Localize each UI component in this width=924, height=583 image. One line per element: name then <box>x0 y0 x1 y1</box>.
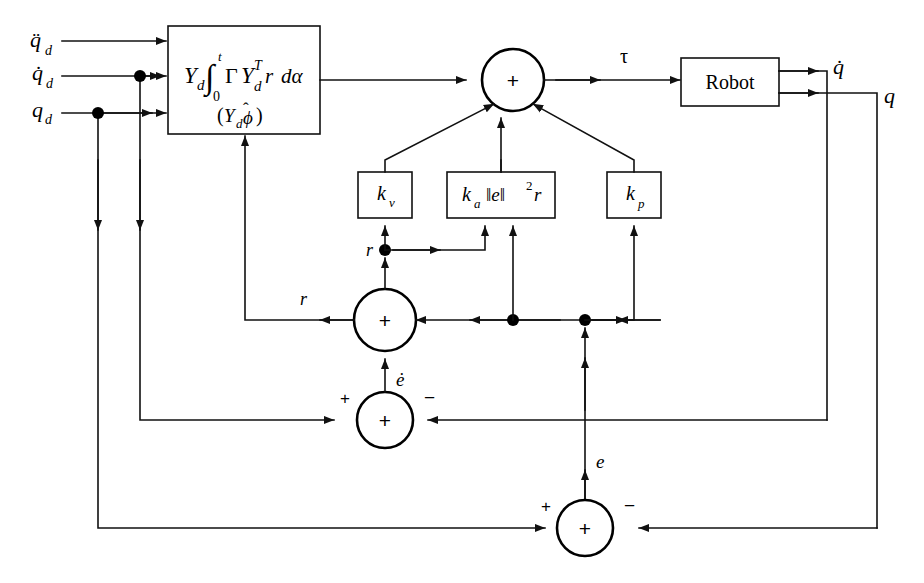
e-summer-plus-sign: + <box>541 497 551 516</box>
formula-YdT-superscript: T <box>254 58 263 73</box>
formula-integral-upper-limit: t <box>218 49 222 64</box>
junction-dot-qd <box>92 107 104 119</box>
signal-label-e: e <box>596 451 604 472</box>
torque-summer-plus-symbol: + <box>507 69 519 92</box>
velocity-gain-block[interactable]: k v <box>358 172 412 218</box>
formula-Yd-subscript: d <box>197 77 205 93</box>
formula-r: r <box>265 64 274 88</box>
ka-subscript: a <box>474 196 481 211</box>
formula-integral-lower-limit: 0 <box>213 89 220 104</box>
adaptive-feedforward-block[interactable]: Y d ∫ t 0 Γ Y d T r dα ( Y d ϕ ˆ ) <box>168 26 320 134</box>
input-qdd-symbol: q̈ <box>30 27 41 52</box>
e-summer-minus-sign: − <box>624 495 635 516</box>
control-block-diagram: Y d ∫ t 0 Γ Y d T r dα ( Y d ϕ ˆ ) q̈ d … <box>0 0 924 583</box>
position-error-summing-junction[interactable]: + <box>557 500 613 556</box>
subformula-paren-close: ) <box>256 104 263 127</box>
kp-subscript: p <box>637 196 645 211</box>
edot-summer-plus-sign: + <box>340 389 350 408</box>
signal-label-edot: ė <box>396 369 404 390</box>
e-summer-plus-symbol: + <box>579 517 591 540</box>
robot-block-label: Robot <box>706 71 755 93</box>
torque-summing-junction[interactable]: + <box>482 49 544 111</box>
formula-YdT-subscript: d <box>254 78 262 94</box>
kv-label: k <box>377 182 387 204</box>
edot-summer-minus-sign: − <box>424 387 435 408</box>
ka-label: k <box>462 183 472 205</box>
edot-summer-plus-symbol: + <box>379 409 391 432</box>
junction-dot-qddot <box>134 70 146 82</box>
kp-label: k <box>626 182 636 204</box>
input-qdd-subscript: d <box>45 43 53 58</box>
robot-block[interactable]: Robot <box>681 58 779 106</box>
r-summer-plus-symbol: + <box>379 309 391 332</box>
signal-label-r-to-adaptive: r <box>300 289 308 309</box>
input-qd-dot-symbol: q̇ <box>32 60 43 85</box>
r-summing-junction[interactable]: + <box>354 289 416 351</box>
subformula-paren-open: ( <box>217 104 224 127</box>
signal-label-q: q <box>884 83 895 108</box>
input-qd-symbol: q <box>32 97 43 122</box>
ka-trailing-r: r <box>534 184 542 205</box>
signal-label-qdot: q̇ <box>833 54 844 79</box>
formula-dalpha: dα <box>281 64 304 88</box>
ka-norm-e: ‖e‖ <box>486 184 505 205</box>
block-diagram-canvas: Y d ∫ t 0 Γ Y d T r dα ( Y d ϕ ˆ ) q̈ d … <box>0 0 924 583</box>
velocity-error-summing-junction[interactable]: + <box>357 392 413 448</box>
input-qd-subscript: d <box>45 112 53 127</box>
signal-label-tau: τ <box>620 45 628 67</box>
diagram-background <box>0 0 924 583</box>
input-qd-dot-subscript: d <box>46 76 54 91</box>
signal-qdot-symbol: q̇ <box>833 54 844 79</box>
signal-q-symbol: q <box>884 83 895 108</box>
formula-gamma: Γ <box>225 63 238 88</box>
adaptive-gain-block[interactable]: k a ‖e‖ 2 r <box>447 172 555 218</box>
position-gain-block[interactable]: k p <box>607 172 661 218</box>
kv-subscript: v <box>389 195 395 210</box>
subformula-Yd-subscript: d <box>236 116 243 131</box>
subformula-phi-hat-accent: ˆ <box>243 99 249 118</box>
signal-label-r-junction: r <box>366 240 374 260</box>
ka-exponent: 2 <box>526 178 533 193</box>
